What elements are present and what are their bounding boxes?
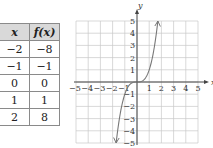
x-tick-label: 5 — [195, 84, 200, 93]
y-tick-label: −5 — [123, 139, 135, 148]
cell-fx: −8 — [30, 41, 60, 58]
y-tick-label: 1 — [130, 66, 135, 75]
y-tick-label: 3 — [130, 41, 135, 50]
x-axis-label: x — [211, 78, 213, 87]
x-tick-label: −5 — [69, 84, 81, 93]
cell-x: 2 — [0, 109, 30, 126]
x-tick-label: 3 — [171, 84, 176, 93]
y-tick-label: −3 — [123, 115, 135, 124]
table-row: 2 8 — [0, 109, 60, 126]
x-tick-label: 1 — [147, 84, 152, 93]
x-tick-label: −4 — [81, 84, 93, 93]
y-tick-label: −2 — [123, 102, 135, 111]
y-tick-label: 5 — [130, 17, 135, 26]
value-table: x f(x) −2 −8 −1 −1 0 0 1 1 2 8 — [0, 23, 60, 126]
y-tick-label: −4 — [123, 127, 135, 136]
cell-fx: 8 — [30, 109, 60, 126]
cell-x: −2 — [0, 41, 30, 58]
x-tick-label: 2 — [159, 84, 164, 93]
table-row: 0 0 — [0, 75, 60, 92]
cubic-graph: −5−4−3−2−11234554321−1−2−3−4−5 x y — [64, 0, 213, 148]
table-row: −1 −1 — [0, 58, 60, 75]
x-tick-label: 4 — [183, 84, 188, 93]
y-tick-label: 4 — [130, 29, 135, 38]
cell-fx: 1 — [30, 92, 60, 109]
axes — [74, 9, 209, 145]
x-tick-label: −2 — [106, 84, 118, 93]
cell-fx: −1 — [30, 58, 60, 75]
x-tick-label: −3 — [94, 84, 106, 93]
table-row: 1 1 — [0, 92, 60, 109]
table-header-row: x f(x) — [0, 24, 60, 41]
cell-fx: 0 — [30, 75, 60, 92]
table-row: −2 −8 — [0, 41, 60, 58]
header-x: x — [0, 24, 30, 41]
y-tick-label: 2 — [130, 54, 135, 63]
header-fx: f(x) — [30, 24, 60, 41]
y-axis-label: y — [137, 1, 143, 10]
cell-x: −1 — [0, 58, 30, 75]
cell-x: 1 — [0, 92, 30, 109]
cell-x: 0 — [0, 75, 30, 92]
